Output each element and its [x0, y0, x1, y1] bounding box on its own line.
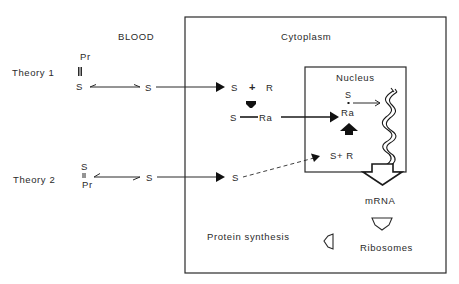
protein-synthesis-label: Protein synthesis — [207, 231, 290, 242]
arrow-up-solid-icon — [340, 123, 358, 135]
mrna-label: mRNA — [365, 195, 395, 206]
theory1-complex-steroid: S — [230, 112, 237, 123]
nucleus-steroid-receptor: S+ R — [330, 150, 354, 161]
equilibrium-arrow-icon — [94, 174, 140, 181]
arrow-down-hollow-icon — [363, 164, 402, 185]
theory1-label: Theory 1 — [12, 67, 54, 78]
theory2-label: Theory 2 — [13, 174, 55, 185]
arrow-right-icon — [281, 112, 339, 123]
theory1-plus: + — [249, 81, 256, 93]
nucleus-label: Nucleus — [336, 72, 375, 83]
dashed-arrow-icon — [243, 154, 320, 178]
arrow-down-solid-icon — [246, 101, 256, 108]
theory1-free-steroid: S — [145, 82, 152, 93]
bond-dot — [348, 102, 350, 104]
theory1-complex-receptor: Ra — [259, 112, 272, 123]
blood-label: BLOOD — [118, 31, 154, 42]
nucleus-steroid: S — [345, 90, 352, 100]
theory1-bound-steroid: S — [76, 81, 83, 92]
arrow-left-hollow-icon — [324, 234, 333, 249]
nucleus-receptor: Ra — [341, 107, 354, 118]
theory1-cyto-steroid: S — [231, 82, 238, 93]
equilibrium-arrow-icon — [90, 85, 140, 88]
arrow-right-icon — [157, 172, 225, 182]
hormone-action-diagram: BLOOD Cytoplasm Nucleus Theory 1 Pr S S … — [0, 0, 459, 284]
triple-bond-icon — [79, 67, 82, 76]
theory1-bound-protein: Pr — [80, 51, 91, 62]
theory2-bound-steroid: S — [81, 161, 88, 172]
theory2-bound-protein: Pr — [82, 179, 93, 190]
theory2-free-steroid: S — [146, 172, 153, 183]
theory1-receptor: R — [266, 82, 273, 93]
arrow-down-hollow-icon — [372, 218, 392, 230]
ribosomes-label: Ribosomes — [360, 242, 413, 253]
arrow-right-icon — [156, 82, 225, 92]
double-bond-icon — [83, 173, 85, 178]
cytoplasm-label: Cytoplasm — [281, 31, 331, 42]
arrow-to-dna-icon — [353, 100, 380, 106]
theory2-cyto-steroid: S — [232, 172, 239, 183]
dna-helix-icon — [382, 88, 397, 166]
